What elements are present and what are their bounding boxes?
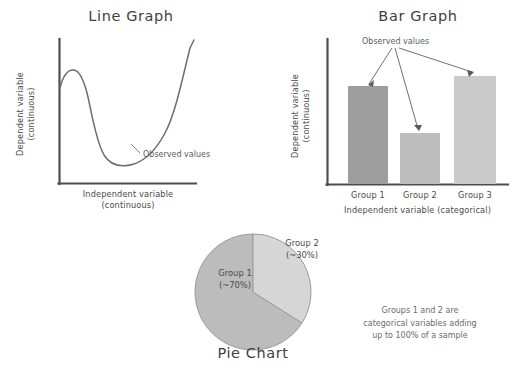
- line-x-label-line2: (continuous): [101, 200, 154, 210]
- figure-canvas: Line Graph Dependent variable (continuou…: [0, 0, 526, 382]
- line-graph-panel: Line Graph Dependent variable (continuou…: [0, 0, 263, 215]
- line-x-label-line1: Independent variable: [83, 189, 174, 199]
- pie-chart-panel: Group 1 (~70%) Group 2 (~30%) Pie Chart …: [150, 205, 526, 382]
- pie-slice-1-name: Group 1: [218, 268, 252, 278]
- bar-group-1: [348, 86, 388, 184]
- pie-caption-line2: categorical variables adding: [363, 319, 476, 328]
- bar-group-2: [400, 133, 440, 184]
- bar-tick-label-group-3: Group 3: [445, 190, 505, 201]
- bar-group-3: [454, 76, 496, 184]
- bar-graph-plot: [280, 0, 526, 195]
- line-graph-observed-values-label: Observed values: [143, 150, 210, 159]
- bar-tick-label-group-1: Group 1: [338, 190, 398, 201]
- bar-graph-panel: Bar Graph Dependent variable (continuous…: [280, 0, 526, 220]
- pie-slice-2-name: Group 2: [285, 238, 319, 248]
- bar-graph-observed-values-label: Observed values: [362, 37, 429, 46]
- bar-tick-label-group-2: Group 2: [390, 190, 450, 201]
- line-graph-plot: [0, 0, 263, 200]
- pie-slice-2-value: (~30%): [286, 250, 318, 260]
- pie-chart-caption: Groups 1 and 2 are categorical variables…: [320, 305, 520, 343]
- line-graph-curve: [60, 40, 194, 166]
- line-graph-annotation-leader: [131, 144, 140, 153]
- pie-caption-line3: up to 100% of a sample: [372, 331, 467, 340]
- pie-slice-1-value: (~70%): [219, 280, 251, 290]
- pie-slice-1-label: Group 1 (~70%): [195, 267, 275, 291]
- pie-caption-line1: Groups 1 and 2 are: [382, 306, 459, 315]
- pie-chart-title: Pie Chart: [183, 345, 323, 361]
- pie-slice-2-label: Group 2 (~30%): [262, 237, 342, 261]
